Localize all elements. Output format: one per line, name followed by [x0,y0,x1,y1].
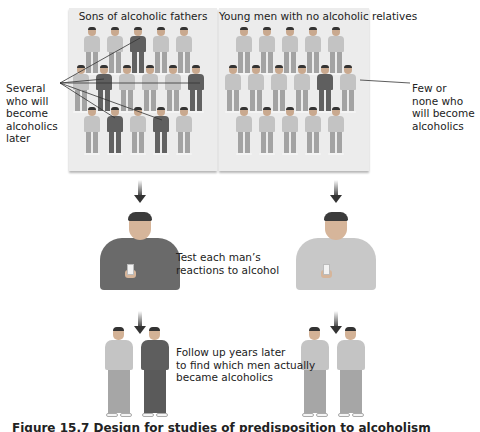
follow-up-figure-dark [140,327,170,417]
annotation-line: become [6,107,58,120]
figure-caption: Figure 15.7 Design for studies of predis… [12,421,431,432]
step-line: became alcoholics [176,371,315,384]
annotation-line: who will [6,95,58,108]
follow-up-figure-light [104,327,134,417]
test-subject-bust-light [296,212,376,292]
step-line: Follow up years later [176,346,315,359]
annotation-line: Few or [412,82,475,95]
annotation-line: will become [412,107,475,120]
step-test-reactions: Test each man’s reactions to alcohol [176,251,279,276]
follow-up-figure-light [336,327,366,417]
test-subject-bust-dark [100,212,180,292]
step-line: Test each man’s [176,251,279,264]
annotation-few-alcoholics: Few or none who will become alcoholics [412,82,475,132]
step-follow-up: Follow up years later to find which men … [176,346,315,384]
step-line: to find which men actually [176,359,315,372]
annotation-line: none who [412,95,475,108]
annotation-several-alcoholics: Several who will become alcoholics later [6,82,58,145]
annotation-line: Several [6,82,58,95]
annotation-line: alcoholics [412,120,475,133]
step-line: reactions to alcohol [176,264,279,277]
annotation-line: alcoholics [6,120,58,133]
annotation-line: later [6,132,58,145]
